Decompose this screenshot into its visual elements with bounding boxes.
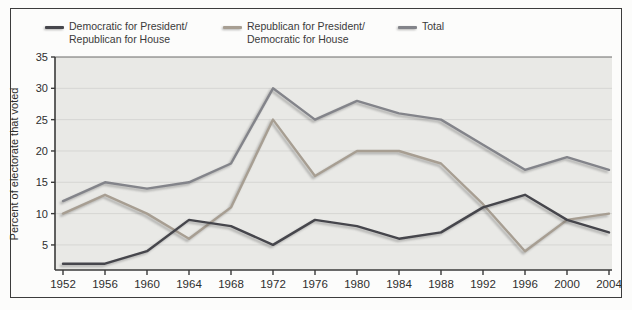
x-tick-label: 1964 — [176, 278, 202, 290]
x-tick-label: 1980 — [344, 278, 370, 290]
x-tick-label: 2000 — [554, 278, 580, 290]
total-line-swatch — [398, 26, 417, 29]
x-tick-label: 1992 — [470, 278, 496, 290]
legend-label: Democratic for President/Republican for … — [69, 20, 187, 46]
y-axis-title: Percent of electorate that voted — [6, 57, 22, 270]
y-tick-label: 5 — [42, 239, 48, 251]
y-tick-label: 30 — [36, 82, 48, 94]
x-tick-label: 1988 — [428, 278, 454, 290]
y-tick-label: 10 — [36, 208, 48, 220]
dem-pres-line-swatch — [45, 26, 64, 29]
ticket-splitting-figure: 5101520253035195219561960196419681972197… — [0, 0, 632, 310]
x-tick-label: 1996 — [512, 278, 538, 290]
chart-legend: Democratic for President/Republican for … — [0, 20, 632, 54]
legend-item-dem-pres: Democratic for President/Republican for … — [45, 20, 187, 46]
x-tick-label: 1984 — [386, 278, 412, 290]
x-tick-label: 1952 — [50, 278, 76, 290]
plot-area — [55, 57, 612, 270]
x-tick-label: 2004 — [596, 278, 622, 290]
x-tick-label: 1956 — [92, 278, 118, 290]
y-tick-label: 20 — [36, 145, 48, 157]
legend-label: Total — [422, 20, 444, 33]
x-tick-label: 1960 — [134, 278, 160, 290]
y-tick-label: 25 — [36, 114, 48, 126]
legend-label: Republican for President/Democratic for … — [247, 20, 365, 46]
legend-item-total: Total — [398, 20, 444, 33]
x-tick-label: 1968 — [218, 278, 244, 290]
x-tick-label: 1976 — [302, 278, 328, 290]
x-tick-label: 1972 — [260, 278, 286, 290]
rep-pres-line-swatch — [223, 26, 242, 29]
y-tick-label: 15 — [36, 176, 48, 188]
legend-item-rep-pres: Republican for President/Democratic for … — [223, 20, 365, 46]
